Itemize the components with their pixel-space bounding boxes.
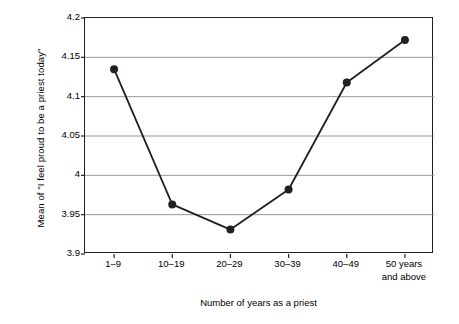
chart-container: Mean of "I feel proud to be a priest tod… (0, 0, 459, 324)
y-axis-tick-label: 4.05 (46, 130, 80, 140)
y-axis-tick-label: 3.9 (46, 248, 80, 258)
data-point-marker (226, 226, 234, 234)
y-axis-tick-labels: 3.93.9544.054.14.154.2 (46, 0, 80, 324)
y-axis-tick-label: 4.2 (46, 12, 80, 22)
data-point-marker (110, 65, 118, 73)
plot-area (84, 17, 433, 253)
chart-plot-svg (85, 18, 434, 254)
data-series-line (114, 40, 405, 230)
x-axis-title: Number of years as a priest (84, 297, 433, 309)
y-axis-tick-label: 3.95 (46, 209, 80, 219)
x-axis-tick-labels: 1–910–1920–2930–3940–4950 years and abov… (84, 258, 433, 292)
data-point-markers (110, 36, 409, 234)
data-point-marker (343, 79, 351, 87)
x-axis-tick-label: 50 years and above (359, 258, 449, 283)
y-axis-tick-label: 4.15 (46, 51, 80, 61)
y-axis-tick-label: 4 (46, 169, 80, 179)
data-point-marker (168, 200, 176, 208)
data-point-marker (401, 36, 409, 44)
y-axis-tick-label: 4.1 (46, 91, 80, 101)
data-point-marker (285, 185, 293, 193)
gridlines (81, 18, 434, 254)
